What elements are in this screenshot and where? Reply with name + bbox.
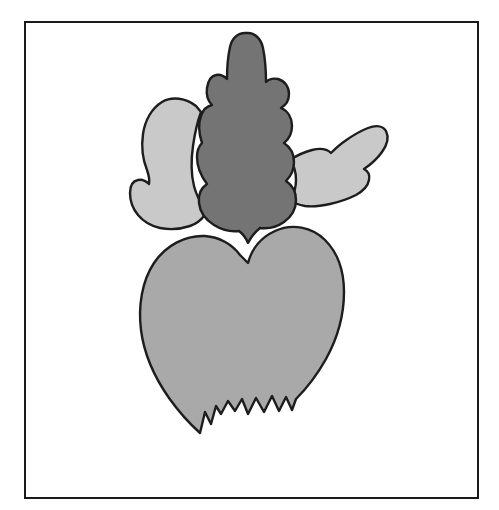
leaf-right-shape: [290, 126, 387, 206]
leaf-right-group: [290, 126, 387, 206]
illustration-page: Beet / Radish line illustration: [0, 0, 499, 510]
bulb-shape: [140, 227, 344, 433]
bulb-group: [140, 227, 344, 433]
leaf-center-shape: [197, 33, 296, 243]
leaf-left-shape: [130, 99, 205, 230]
leaf-center-group: [197, 33, 296, 243]
leaf-left-group: [130, 99, 205, 230]
beet-illustration: [0, 0, 499, 510]
